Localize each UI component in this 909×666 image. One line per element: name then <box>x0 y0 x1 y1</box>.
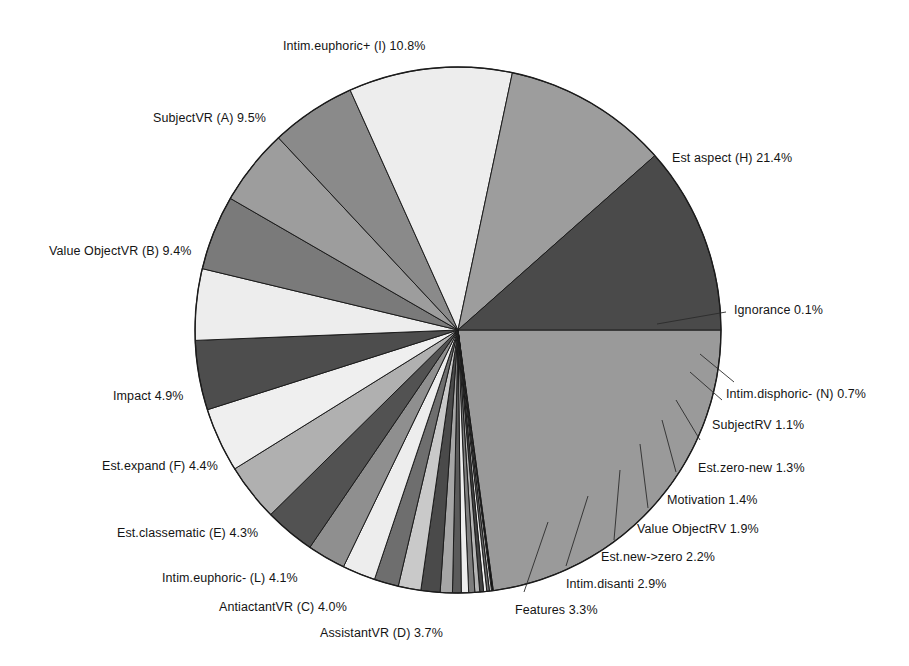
label-impact: Impact 4.9% <box>113 390 184 404</box>
label-subjectrv: SubjectRV 1.1% <box>712 419 804 433</box>
label-motivation: Motivation 1.4% <box>667 494 757 508</box>
label-est-aspect-h: Est aspect (H) 21.4% <box>672 152 792 166</box>
label-intim-euphoric-plus: Intim.euphoric+ (I) 10.8% <box>283 40 426 54</box>
pie-slices-group <box>195 67 721 593</box>
label-subjectvr-a: SubjectVR (A) 9.5% <box>153 112 266 126</box>
label-intim-disanti: Intim.disanti 2.9% <box>566 578 666 592</box>
label-features: Features 3.3% <box>515 604 598 618</box>
label-est-expand-f: Est.expand (F) 4.4% <box>102 460 218 474</box>
label-antiactantvr-c: AntiactantVR (C) 4.0% <box>219 601 347 615</box>
label-est-classematic-e: Est.classematic (E) 4.3% <box>117 527 258 541</box>
pie-chart: Intim.euphoric+ (I) 10.8%SubjectVR (A) 9… <box>0 0 909 666</box>
label-intim-disphoric-n: Intim.disphoric- (N) 0.7% <box>726 388 866 402</box>
label-est-new-zero: Est.new->zero 2.2% <box>601 551 715 565</box>
label-assistantvr-d: AssistantVR (D) 3.7% <box>320 627 443 641</box>
label-value-objectrv: Value ObjectRV 1.9% <box>637 523 759 537</box>
label-value-objectvr-b: Value ObjectVR (B) 9.4% <box>49 245 191 259</box>
pie-svg <box>0 0 909 666</box>
label-est-zero-new: Est.zero-new 1.3% <box>698 462 805 476</box>
label-ignorance: Ignorance 0.1% <box>734 304 823 318</box>
label-intim-euphoric-minus-l: Intim.euphoric- (L) 4.1% <box>162 572 298 586</box>
